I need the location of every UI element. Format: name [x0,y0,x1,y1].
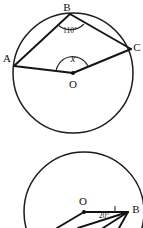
figure-clip-region: B A C O 110° x O B 20° [0,0,143,228]
point-label-b-bottom: B [132,203,139,215]
geometry-figure-sheet: B A C O 110° x O B 20° [0,0,143,228]
figure-circle-theorem-bottom: O B 20° [0,0,143,228]
center-point-o-bottom [82,210,86,214]
angle-label-20: 20° [99,211,110,220]
segment-o-lower-left [57,212,84,228]
center-label-o-bottom: O [79,195,87,207]
